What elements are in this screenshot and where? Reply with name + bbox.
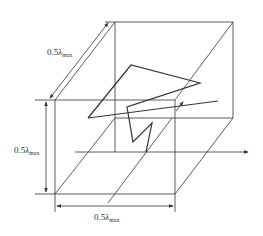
width-label: 0.5λmax [94, 213, 120, 223]
random-path [88, 65, 200, 152]
cube-front-face [35, 100, 175, 212]
depth-label: 0.5λmax [47, 48, 73, 58]
ray-line [88, 101, 218, 118]
height-label: 0.5λmax [14, 146, 40, 156]
depth-dimension-line [50, 23, 108, 98]
cube-diagram [0, 0, 263, 236]
cube-back-face [105, 22, 233, 152]
cube-depth-edges [55, 22, 233, 203]
